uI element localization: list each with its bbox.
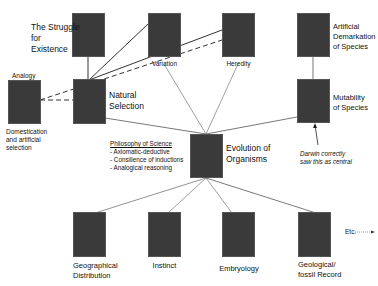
struggle-label-line-3: Existence	[31, 44, 80, 55]
philosophy-item: - Consilience of inductions	[110, 156, 184, 164]
mutability-box	[297, 79, 330, 123]
natural-selection-box	[73, 79, 106, 124]
analogy-label-line-1: Domestication	[6, 128, 47, 136]
mutability-label: Mutability of Species	[333, 93, 368, 113]
analogy-box	[8, 80, 41, 124]
geological-line-2: fossil Record	[298, 270, 341, 280]
natural-selection-line-1: Natural	[109, 90, 144, 101]
philosophy-item: - Axiomatic-deductive	[110, 148, 184, 156]
instinct-box	[148, 212, 181, 257]
analogy-label-line-2: and artificial	[6, 136, 47, 144]
struggle-label-line-1: The Struggle	[31, 22, 80, 33]
annotation-line-1: Darwin correctly	[300, 150, 352, 158]
philosophy-item: - Analogical reasoning	[110, 164, 184, 172]
geological-box	[298, 212, 331, 257]
etc-label: Etc.	[345, 228, 356, 236]
philosophy-title: Philosophy of Science	[110, 140, 184, 148]
evolution-line-2: Organisms	[226, 154, 270, 165]
geographical-line-2: Distribution	[73, 271, 118, 281]
artificial-label-line-1: Artificial	[333, 22, 376, 32]
darwin-annotation: Darwin correctly saw this as central	[300, 150, 352, 166]
mutability-line-1: Mutability	[333, 93, 368, 103]
evolution-line-1: Evolution of	[226, 143, 270, 154]
artificial-label-line-2: Demarkation	[333, 32, 376, 42]
variation-label: Variation	[148, 60, 181, 68]
embryology-box	[222, 212, 255, 257]
artificial-label-line-3: of Species	[333, 42, 376, 52]
geological-label: Geological/ fossil Record	[298, 260, 341, 280]
geographical-box	[73, 212, 106, 257]
embryology-label: Embryology	[213, 264, 265, 274]
natural-selection-line-2: Selection	[109, 101, 144, 112]
struggle-label-line-2: for	[31, 33, 80, 44]
natural-selection-label: Natural Selection	[109, 90, 144, 112]
mutability-line-2: of Species	[333, 103, 368, 113]
analogy-label: Domestication and artificial selection	[6, 128, 47, 152]
analogy-label-line-3: selection	[6, 144, 47, 152]
philosophy-note: Philosophy of Science - Axiomatic-deduct…	[110, 140, 184, 172]
evolution-box	[190, 134, 223, 178]
variation-box	[148, 13, 181, 57]
heredity-label: Heredity	[222, 60, 255, 68]
artificial-demarkation-box	[297, 13, 330, 57]
instinct-label: Instinct	[143, 261, 186, 271]
geographical-line-1: Geographical	[73, 261, 118, 271]
evolution-label: Evolution of Organisms	[226, 143, 270, 165]
geographical-label: Geographical Distribution	[73, 261, 118, 281]
annotation-line-2: saw this as central	[300, 158, 352, 166]
struggle-label: The Struggle for Existence	[31, 22, 80, 55]
analogy-title: Analogy	[12, 72, 36, 80]
artificial-demarkation-label: Artificial Demarkation of Species	[333, 22, 376, 52]
heredity-box	[222, 13, 255, 57]
geological-line-1: Geological/	[298, 260, 341, 270]
